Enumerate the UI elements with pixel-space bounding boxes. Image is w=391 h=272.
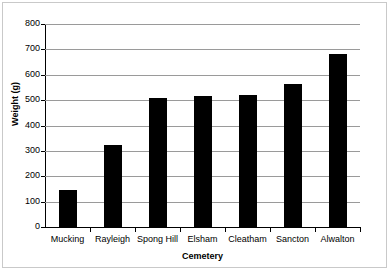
bar-slot bbox=[45, 24, 90, 227]
bar[interactable] bbox=[194, 96, 212, 227]
bar[interactable] bbox=[104, 145, 122, 227]
x-tick-mark bbox=[225, 228, 226, 232]
bar-slot bbox=[270, 24, 315, 227]
bar-slot bbox=[225, 24, 270, 227]
y-axis-title: Weight (g) bbox=[10, 69, 20, 139]
bar[interactable] bbox=[149, 98, 167, 227]
x-axis-title: Cemetery bbox=[45, 251, 360, 261]
y-tick-mark bbox=[41, 75, 45, 76]
plot-area bbox=[45, 24, 360, 227]
y-tick-mark bbox=[41, 151, 45, 152]
x-tick-mark bbox=[315, 228, 316, 232]
y-tick-mark bbox=[41, 100, 45, 101]
x-tick-mark bbox=[180, 228, 181, 232]
chart-frame: 8007006005004003002001000 Weight (g) Muc… bbox=[2, 2, 387, 268]
x-tick-label: Cleatham bbox=[225, 234, 270, 245]
y-tick-label: 0 bbox=[6, 222, 40, 231]
y-tick-mark bbox=[41, 202, 45, 203]
x-tick-mark bbox=[360, 228, 361, 232]
x-tick-label: Mucking bbox=[45, 234, 90, 245]
x-tick-mark bbox=[90, 228, 91, 232]
y-tick-label: 300 bbox=[6, 146, 40, 155]
y-tick-mark bbox=[41, 24, 45, 25]
x-tick-label: Rayleigh bbox=[90, 234, 135, 245]
y-tick-label: 100 bbox=[6, 197, 40, 206]
bar[interactable] bbox=[59, 190, 77, 227]
y-tick-label: 800 bbox=[6, 19, 40, 28]
x-axis-line bbox=[45, 227, 361, 228]
y-tick-mark bbox=[41, 227, 45, 228]
x-tick-mark bbox=[135, 228, 136, 232]
x-tick-label: Elsham bbox=[180, 234, 225, 245]
x-tick-mark bbox=[270, 228, 271, 232]
bar-slot bbox=[90, 24, 135, 227]
bar[interactable] bbox=[239, 95, 257, 227]
bar-slot bbox=[135, 24, 180, 227]
y-tick-label: 700 bbox=[6, 44, 40, 53]
y-axis-tick-labels: 8007006005004003002001000 bbox=[3, 3, 40, 272]
x-tick-label: Spong Hill bbox=[135, 234, 180, 245]
bar-slot bbox=[180, 24, 225, 227]
bar[interactable] bbox=[329, 54, 347, 227]
y-tick-label: 200 bbox=[6, 171, 40, 180]
y-tick-mark bbox=[41, 49, 45, 50]
bar[interactable] bbox=[284, 84, 302, 227]
y-tick-mark bbox=[41, 176, 45, 177]
y-tick-mark bbox=[41, 126, 45, 127]
x-tick-label: Sancton bbox=[270, 234, 315, 245]
x-tick-label: Alwalton bbox=[315, 234, 360, 245]
bar-slot bbox=[315, 24, 360, 227]
